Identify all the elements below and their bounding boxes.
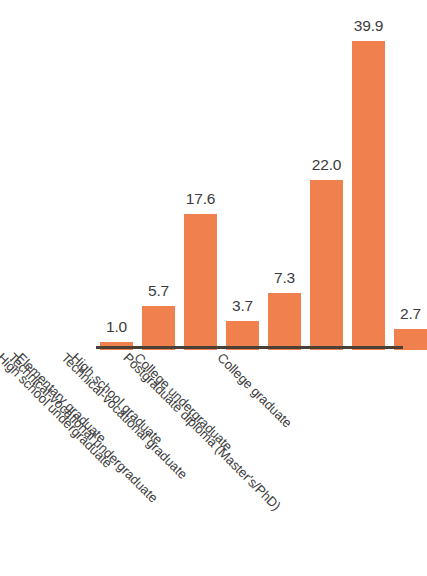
bar-rect[interactable] [310,180,343,350]
plot-area: 1.0 5.7 17.6 3.7 7.3 22.0 39.9 2 [0,0,403,350]
bar-value-label: 5.7 [148,282,169,300]
bar-value-label: 22.0 [312,156,341,174]
x-axis-category-labels: Elementary graduate High school undergra… [0,350,403,576]
bar-value-label: 3.7 [232,297,253,315]
bar-group: 7.3 [268,4,301,350]
bar-value-label: 2.7 [400,305,421,323]
x-axis-baseline [96,346,403,349]
bar-value-label: 39.9 [354,17,383,35]
bar-group: 39.9 [352,4,385,350]
bar-rect[interactable] [184,214,217,350]
bar-group: 17.6 [184,4,217,350]
bar-group: 1.0 [100,4,133,350]
bar-rect[interactable] [352,41,385,350]
bar-group: 22.0 [310,4,343,350]
bar-group: 2.7 [394,4,427,350]
category-label: College graduate [214,350,295,431]
bar-value-label: 7.3 [274,269,295,287]
bar-rect[interactable] [268,293,301,350]
bar-group: 3.7 [226,4,259,350]
bar-value-label: 1.0 [106,318,127,336]
bar-rect[interactable] [142,306,175,350]
bar-group: 5.7 [142,4,175,350]
bar-value-label: 17.6 [186,190,215,208]
